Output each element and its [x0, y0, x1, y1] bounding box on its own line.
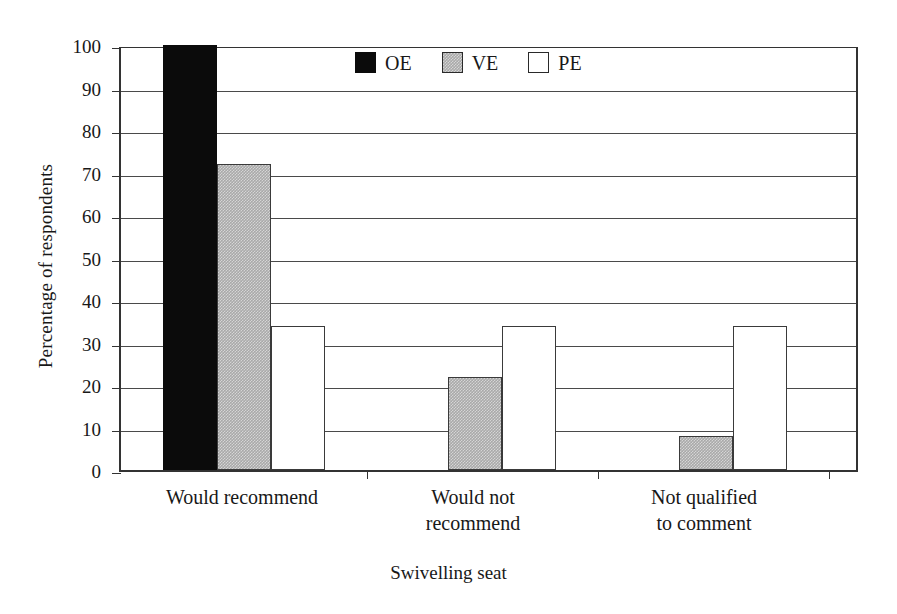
- plot-area: [119, 47, 858, 472]
- y-axis-tick-label: 50: [41, 250, 101, 269]
- y-axis-tick-label: 70: [41, 165, 101, 184]
- y-axis-tick-mark: [112, 431, 121, 432]
- bar-oe-group-1: [163, 45, 217, 470]
- y-axis-tick-mark: [112, 346, 121, 347]
- y-axis-tick-label: 60: [41, 207, 101, 226]
- legend-label: PE: [558, 53, 581, 73]
- legend-swatch-icon-oe: [355, 52, 376, 73]
- y-axis-tick-mark: [112, 218, 121, 219]
- legend-item-oe: OE: [355, 52, 412, 73]
- bar-pe-group-1: [271, 326, 325, 471]
- x-axis-category-label: Would recommend: [112, 484, 372, 510]
- y-axis-tick-mark: [112, 48, 121, 49]
- x-axis-tick-mark: [829, 470, 830, 479]
- y-axis-tick-mark: [112, 303, 121, 304]
- x-axis-category-label-line: Not qualified: [574, 484, 834, 510]
- bar-pe-group-2: [502, 326, 556, 471]
- y-axis-tick-mark: [112, 261, 121, 262]
- bar-ve-group-1: [217, 164, 271, 470]
- y-axis-tick-label: 100: [41, 37, 101, 56]
- legend-swatch-icon-ve: [442, 52, 463, 73]
- y-axis-tick-mark: [112, 388, 121, 389]
- legend-item-ve: VE: [442, 52, 499, 73]
- bar-pe-group-3: [733, 326, 787, 471]
- y-axis-tick-label: 20: [41, 377, 101, 396]
- legend-label: VE: [472, 53, 499, 73]
- y-axis-tick-label: 10: [41, 420, 101, 439]
- y-axis-tick-label: 90: [41, 80, 101, 99]
- y-axis-tick-mark: [112, 176, 121, 177]
- bar-ve-group-3: [679, 436, 733, 470]
- gridline: [121, 133, 856, 134]
- x-axis-tick-mark: [367, 470, 368, 479]
- y-axis-tick-mark: [112, 473, 121, 474]
- x-axis-category-label-line: Would not: [343, 484, 603, 510]
- legend-swatch-icon-pe: [528, 52, 549, 73]
- legend-item-pe: PE: [528, 52, 581, 73]
- x-axis-category-label: Would notrecommend: [343, 484, 603, 537]
- y-axis-tick-label: 40: [41, 292, 101, 311]
- bar-chart: Percentage of respondents 01020304050607…: [0, 0, 897, 614]
- gridline: [121, 91, 856, 92]
- y-axis-tick-label: 80: [41, 122, 101, 141]
- x-axis-title: Swivelling seat: [0, 562, 897, 584]
- legend-label: OE: [385, 53, 412, 73]
- y-axis-tick-mark: [112, 91, 121, 92]
- legend: OEVEPE: [355, 52, 582, 73]
- x-axis-category-label-line: recommend: [343, 510, 603, 536]
- x-axis-category-label: Not qualifiedto comment: [574, 484, 834, 537]
- y-axis-tick-label: 30: [41, 335, 101, 354]
- y-axis-tick-mark: [112, 133, 121, 134]
- y-axis-tick-label: 0: [41, 462, 101, 481]
- x-axis-category-label-line: to comment: [574, 510, 834, 536]
- x-axis-tick-mark: [598, 470, 599, 479]
- x-axis-category-label-line: Would recommend: [112, 484, 372, 510]
- bar-ve-group-2: [448, 377, 502, 471]
